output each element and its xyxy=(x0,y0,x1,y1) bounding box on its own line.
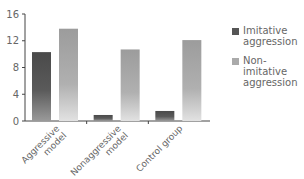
x-category-label: Aggressivemodel xyxy=(19,123,68,172)
y-tick-label: 16 xyxy=(6,9,19,20)
legend-swatch-non-imitative xyxy=(232,58,239,65)
x-category-label: Nonaggressivemodel xyxy=(69,123,131,179)
legend-item-non-imitative: Non-imitativeaggression xyxy=(232,55,304,88)
category-labels: AggressivemodelNonaggressivemodelControl… xyxy=(19,123,185,179)
legend: Imitativeaggression Non-imitativeaggress… xyxy=(232,25,304,96)
bar-non-imitative xyxy=(59,29,78,121)
legend-item-imitative: Imitativeaggression xyxy=(232,25,304,47)
legend-label-non-imitative: Non-imitativeaggression xyxy=(243,55,304,88)
y-tick-label: 8 xyxy=(13,62,19,73)
bar-imitative xyxy=(32,52,51,121)
bars xyxy=(32,29,201,121)
y-tick-label: 4 xyxy=(13,89,19,100)
bar-imitative xyxy=(155,111,174,121)
bar-non-imitative xyxy=(182,40,201,121)
y-axis: 0481216 xyxy=(6,9,25,127)
y-tick-label: 12 xyxy=(6,35,19,46)
legend-swatch-imitative xyxy=(232,28,239,35)
bar-non-imitative xyxy=(121,49,140,121)
x-category-label: Control group xyxy=(134,123,185,174)
y-tick-label: 0 xyxy=(13,116,19,127)
legend-label-imitative: Imitativeaggression xyxy=(243,25,298,47)
bar-imitative xyxy=(94,115,113,121)
